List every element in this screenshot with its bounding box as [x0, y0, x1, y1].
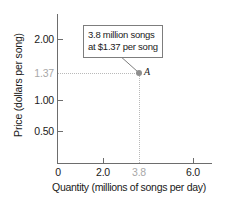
y-tick-label-0-50: 0.50: [34, 125, 54, 137]
x-tick-label-6-0: 6.0: [181, 166, 205, 178]
y-axis-line: [57, 14, 58, 164]
x-tick-label-0: 0: [48, 166, 68, 178]
y-tick-mark-0-50: [58, 131, 63, 132]
data-point-a[interactable]: [136, 70, 142, 76]
callout-line-2: at $1.37 per song: [88, 41, 158, 53]
x-tick-mark-2-0: [103, 158, 104, 163]
y-tick-mark-2-00: [58, 39, 63, 40]
callout-line-1: 3.8 million songs: [88, 29, 158, 41]
x-axis-line: [57, 163, 212, 164]
x-tick-label-3-8: 3.8: [127, 166, 151, 178]
y-axis-title: Price (dollars per song): [12, 15, 24, 155]
callout-annotation-box: 3.8 million songs at $1.37 per song: [83, 25, 163, 58]
data-point-a-label: A: [144, 66, 150, 77]
x-tick-label-2-0: 2.0: [91, 166, 115, 178]
guide-line-vertical: [139, 73, 140, 163]
y-tick-label-2-00: 2.00: [34, 33, 54, 45]
y-tick-label-1-37: 1.37: [34, 67, 54, 79]
x-axis-title: Quantity (millions of songs per day): [40, 181, 218, 193]
y-tick-mark-1-00: [58, 100, 63, 101]
guide-line-horizontal: [58, 73, 139, 74]
y-tick-label-1-00: 1.00: [34, 94, 54, 106]
price-quantity-chart: 2.00 1.37 1.00 0.50 0 2.0 3.8 6.0 Price …: [0, 0, 225, 204]
x-tick-mark-6-0: [193, 158, 194, 163]
